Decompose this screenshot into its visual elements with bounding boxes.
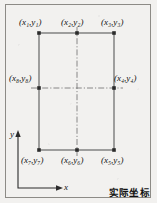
x-axis-label: x: [64, 183, 68, 192]
vertex-marker-2: [75, 31, 79, 35]
diagram-vector-art: [0, 0, 157, 203]
vertex-marker-7: [37, 148, 41, 152]
vertex-marker-1: [37, 31, 41, 35]
vertex-label-1: (x₁,y₁): [19, 18, 42, 27]
vertex-label-7: (x₇,y₇): [21, 156, 44, 165]
vertex-label-4: (x₄,y₄): [114, 74, 137, 83]
vertex-marker-5: [112, 148, 116, 152]
vertex-marker-4: [112, 86, 116, 90]
y-axis-arrowhead: [15, 130, 20, 137]
x-axis-arrowhead: [56, 185, 63, 190]
vertex-label-5: (x₅,y₅): [101, 156, 124, 165]
figure-caption: 实际坐标: [109, 188, 150, 198]
vertex-label-8: (x₈,y₈): [9, 74, 32, 83]
vertex-marker-8: [37, 86, 41, 90]
coordinate-diagram-figure: (x₁,y₁) (x₂,y₂) (x₃,y₃) (x₄,y₄) (x₅,y₅) …: [0, 0, 157, 203]
vertex-marker-6: [75, 148, 79, 152]
vertex-marker-3: [112, 31, 116, 35]
vertex-label-2: (x₂,y₂): [61, 18, 84, 27]
y-axis-label: y: [10, 130, 14, 139]
vertex-label-6: (x₆,y₆): [61, 156, 84, 165]
rectangle-outline: [39, 33, 114, 150]
vertex-label-3: (x₃,y₃): [101, 18, 124, 27]
